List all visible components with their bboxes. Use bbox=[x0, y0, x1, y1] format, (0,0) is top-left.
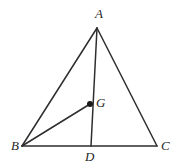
point-label-A: A bbox=[95, 7, 103, 20]
point-label-G: G bbox=[96, 96, 105, 109]
segment-AB bbox=[22, 28, 97, 146]
point-dot-G bbox=[87, 101, 93, 107]
point-label-D: D bbox=[85, 150, 94, 163]
geometry-figure: A B C D G bbox=[0, 0, 179, 166]
figure-canvas bbox=[0, 0, 179, 166]
segment-AD bbox=[91, 28, 97, 146]
segment-BG bbox=[22, 104, 90, 146]
segment-group bbox=[22, 28, 157, 146]
point-label-C: C bbox=[161, 139, 170, 152]
point-label-B: B bbox=[11, 139, 19, 152]
vertex-dot-group bbox=[87, 101, 93, 107]
segment-AC bbox=[97, 28, 157, 146]
